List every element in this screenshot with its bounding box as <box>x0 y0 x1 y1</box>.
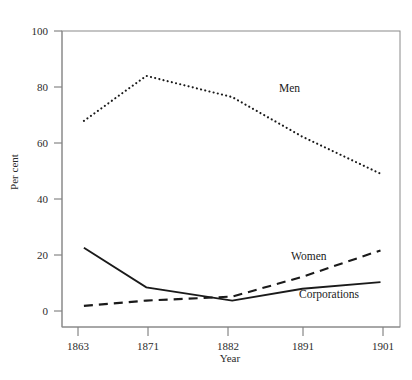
series-label-men: Men <box>279 82 300 94</box>
series-line-men <box>84 76 381 174</box>
x-tick-label-1891: 1891 <box>281 340 325 352</box>
x-tick-label-1882: 1882 <box>206 340 250 352</box>
y-tick-label-100: 100 <box>14 25 48 37</box>
chart-figure: 100 80 60 40 20 0 1863 1871 1882 1891 19… <box>0 0 412 380</box>
x-tick-label-1863: 1863 <box>56 340 100 352</box>
x-axis-title: Year <box>208 352 252 364</box>
y-tick-label-80: 80 <box>14 81 48 93</box>
y-axis-ticks <box>54 31 62 327</box>
plot-canvas <box>0 0 412 380</box>
y-tick-label-20: 20 <box>14 249 48 261</box>
plot-frame <box>62 31 400 327</box>
series-label-corporations: Corporations <box>299 288 359 300</box>
series-label-women: Women <box>291 250 326 262</box>
y-axis-title: Per cent <box>8 142 20 202</box>
x-tick-label-1871: 1871 <box>126 340 170 352</box>
x-tick-label-1901: 1901 <box>361 340 405 352</box>
y-tick-label-0: 0 <box>14 305 48 317</box>
x-axis-ticks <box>62 327 400 336</box>
